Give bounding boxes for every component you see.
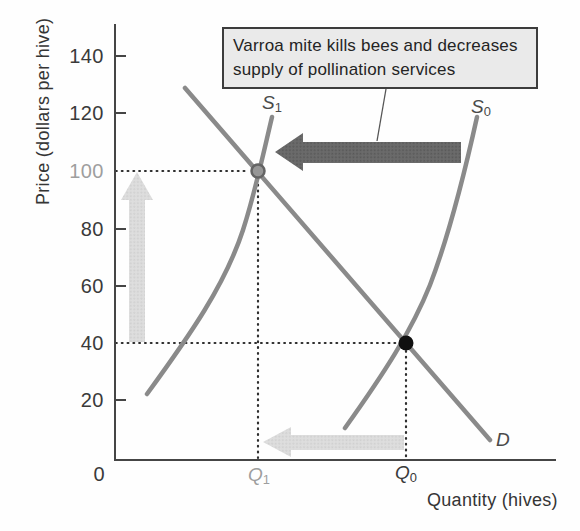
q0-label: Q0 <box>395 462 417 485</box>
q1-sub: 1 <box>263 472 270 487</box>
dotted-guide-lines <box>116 171 406 458</box>
s1-curve-label: S1 <box>262 92 282 115</box>
annotation-box: Varroa mite kills bees and decreases sup… <box>222 27 538 89</box>
s1-sub: 1 <box>275 100 282 115</box>
x-axis-title: Quantity (hives) <box>427 490 558 511</box>
q1-label: Q1 <box>248 464 270 487</box>
y-tick-label: 120 <box>52 102 104 125</box>
q0-base: Q <box>395 462 410 483</box>
y-axis-title: Price (dollars per hive) <box>33 18 54 205</box>
y-tick-label: 80 <box>52 218 104 241</box>
annotation-leader-line <box>377 89 386 141</box>
annotation-line-1: Varroa mite kills bees and decreases <box>233 34 527 58</box>
supply-curve-s1 <box>147 117 272 394</box>
q0-sub: 0 <box>410 470 417 485</box>
supply-curve-s0 <box>345 117 477 428</box>
axes <box>114 24 556 460</box>
y-tick-label: 20 <box>52 389 104 412</box>
quantity-fall-arrow <box>263 427 404 457</box>
y-tick-label: 140 <box>52 45 104 68</box>
initial-equilibrium-point <box>399 336 414 351</box>
y-tick-label-price-40: 40 <box>52 332 104 355</box>
demand-curve-label: D <box>496 429 510 451</box>
s1-base: S <box>262 92 275 113</box>
origin-label: 0 <box>88 463 110 486</box>
s0-sub: 0 <box>484 104 491 119</box>
price-rise-arrow <box>121 172 153 342</box>
y-tick-label: 60 <box>52 275 104 298</box>
q1-base: Q <box>248 464 263 485</box>
s0-curve-label: S0 <box>471 96 491 119</box>
y-tick-label-price-100: 100 <box>52 160 104 183</box>
supply-demand-figure: Price (dollars per hive) 140 120 100 80 … <box>0 0 580 531</box>
annotation-line-2: supply of pollination services <box>233 58 527 82</box>
s0-base: S <box>471 96 484 117</box>
supply-shift-arrow <box>275 133 461 171</box>
new-equilibrium-point <box>252 165 265 178</box>
